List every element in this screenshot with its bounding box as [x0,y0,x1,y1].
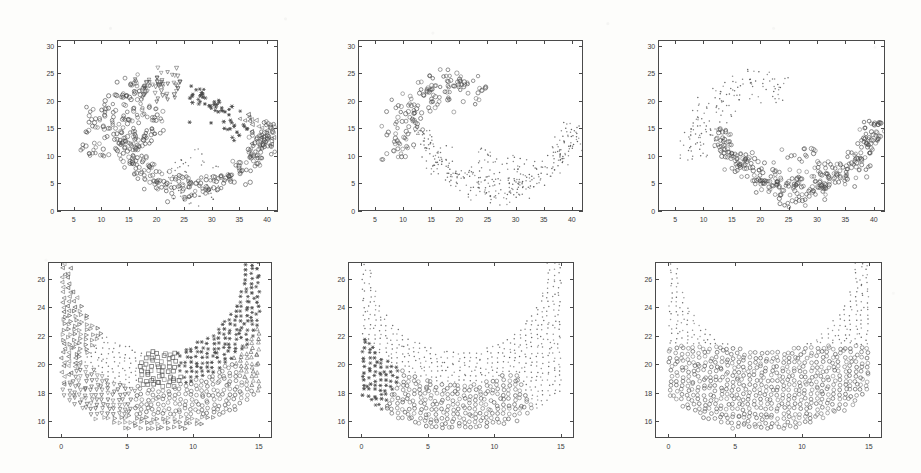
y-axis-tick-label: 18 [331,389,345,396]
y-axis-tick-label: 15 [40,125,54,132]
chart-panel-bottom-middle: 051015161820222426 [348,262,574,438]
x-axis-tick-label: 30 [208,216,215,223]
x-axis-tick-label: 20 [756,216,763,223]
x-axis-tick-label: 10 [491,443,498,450]
x-axis-tick-label: 5 [72,216,76,223]
x-axis-tick-label: 20 [456,216,463,223]
y-axis-tick-label: 0 [341,208,355,215]
chart-panel-top-right: 510152025303540051015202530 [658,40,885,211]
y-axis-tick-label: 20 [638,361,652,368]
y-axis-tick-label: 22 [638,332,652,339]
chart-panel-bottom-right: 051015161820222426 [655,262,882,438]
x-axis-tick-label: 30 [512,216,519,223]
y-axis-tick-label: 5 [40,180,54,187]
y-axis-tick-label: 5 [641,180,655,187]
y-axis-tick-label: 16 [331,417,345,424]
y-axis-tick-label: 20 [331,361,345,368]
y-axis-tick-right [274,211,278,212]
y-axis-tick-label: 20 [31,361,45,368]
y-axis-tick [658,211,662,212]
x-axis-tick-label: 15 [427,216,434,223]
x-axis-tick-label: 10 [700,216,707,223]
x-axis-tick-label: 5 [673,216,677,223]
y-axis-tick-label: 18 [638,389,652,396]
x-axis-tick-label: 5 [426,443,430,450]
chart-panel-top-middle: 510152025303540051015202530 [358,40,583,211]
x-axis-tick-label: 5 [125,443,129,450]
y-axis-tick-label: 18 [31,389,45,396]
y-axis-tick-label: 16 [638,417,652,424]
x-axis-tick-label: 0 [59,443,63,450]
x-axis-tick-label: 35 [540,216,547,223]
x-axis-tick-label: 10 [97,216,104,223]
x-axis-tick-label: 0 [359,443,363,450]
y-axis-tick-label: 25 [341,70,355,77]
y-axis-tick-label: 15 [641,125,655,132]
x-axis-tick-label: 5 [373,216,377,223]
scatter-layer [57,40,278,211]
x-axis-tick-label: 35 [842,216,849,223]
x-axis-tick-label: 35 [236,216,243,223]
x-axis-tick-label: 10 [189,443,196,450]
y-axis-tick-label: 0 [40,208,54,215]
x-axis-tick-label: 30 [813,216,820,223]
x-axis-tick-label: 0 [666,443,670,450]
x-axis-tick-label: 15 [125,216,132,223]
y-axis-tick-label: 22 [31,332,45,339]
x-axis-tick-label: 40 [263,216,270,223]
y-axis-tick-label: 26 [31,276,45,283]
x-axis-tick-label: 15 [255,443,262,450]
y-axis-tick-label: 15 [341,125,355,132]
y-axis-tick-label: 10 [341,152,355,159]
y-axis-tick-right [881,211,885,212]
scatter-layer [658,40,885,211]
x-axis-tick-label: 20 [153,216,160,223]
x-axis-tick-label: 15 [728,216,735,223]
x-axis-tick-label: 25 [180,216,187,223]
y-axis-tick-label: 10 [40,152,54,159]
y-axis-tick-label: 26 [638,276,652,283]
chart-panel-top-left: 510152025303540051015202530 [57,40,278,211]
y-axis-tick-label: 25 [40,70,54,77]
x-axis-tick-label: 10 [798,443,805,450]
x-axis-tick-label: 15 [557,443,564,450]
y-axis-tick-label: 20 [341,97,355,104]
y-axis-tick-label: 20 [40,97,54,104]
x-axis-tick-label: 10 [399,216,406,223]
y-axis-tick-right [579,211,583,212]
y-axis-tick-label: 22 [331,332,345,339]
y-axis-tick-label: 24 [31,304,45,311]
scatter-layer [48,262,272,438]
y-axis-tick [57,211,61,212]
x-axis-tick-label: 25 [484,216,491,223]
y-axis-tick [358,211,362,212]
x-axis-tick-label: 5 [733,443,737,450]
y-axis-tick-label: 26 [331,276,345,283]
y-axis-tick-label: 16 [31,417,45,424]
scatter-layer [655,262,882,438]
chart-panel-bottom-left: 051015161820222426 [48,262,272,438]
x-axis-tick-label: 40 [568,216,575,223]
y-axis-tick-label: 30 [641,42,655,49]
y-axis-tick-label: 10 [641,152,655,159]
y-axis-tick-label: 20 [641,97,655,104]
x-axis-tick-label: 15 [865,443,872,450]
x-axis-tick-label: 25 [785,216,792,223]
scatter-layer [358,40,583,211]
x-axis-tick-label: 40 [870,216,877,223]
y-axis-tick-label: 24 [331,304,345,311]
y-axis-tick-label: 30 [341,42,355,49]
y-axis-tick-label: 0 [641,208,655,215]
y-axis-tick-label: 5 [341,180,355,187]
y-axis-tick-label: 24 [638,304,652,311]
scatter-layer [348,262,574,438]
y-axis-tick-label: 25 [641,70,655,77]
y-axis-tick-label: 30 [40,42,54,49]
